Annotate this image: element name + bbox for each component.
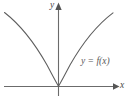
y-axis-arrowhead-icon xyxy=(55,3,61,11)
curve-right-branch xyxy=(59,13,114,87)
curve-left-branch xyxy=(5,13,59,87)
x-axis-label: x xyxy=(120,81,124,91)
plot-canvas xyxy=(0,0,130,103)
function-graph-figure: y x y = f(x) xyxy=(0,0,130,103)
x-axis-arrowhead-icon xyxy=(113,83,120,89)
function-equation-label: y = f(x) xyxy=(81,57,110,67)
y-axis-label: y xyxy=(50,1,54,11)
